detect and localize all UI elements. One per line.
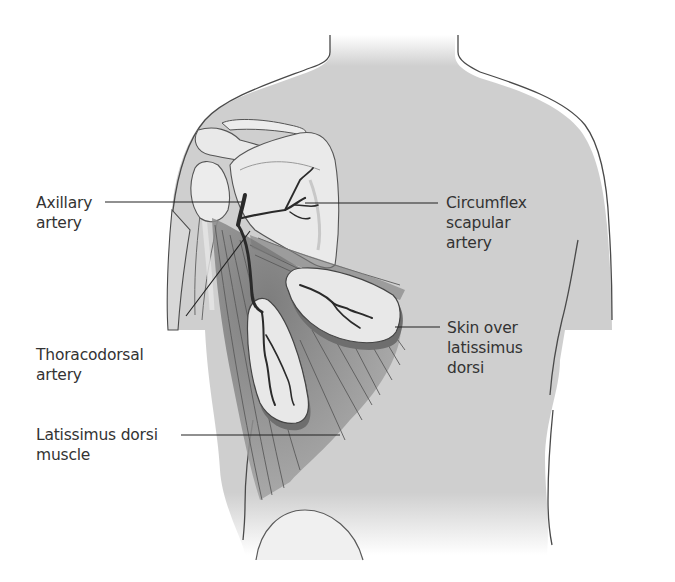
label-circumflex-line3: artery (446, 233, 527, 253)
label-circumflex-line2: scapular (446, 213, 527, 233)
label-axillary-line2: artery (36, 213, 92, 233)
label-skin-line2: latissimus (447, 338, 523, 358)
label-axillary-line1: Axillary (36, 193, 92, 213)
label-latissimus-line1: Latissimus dorsi (36, 425, 158, 445)
label-skin-line3: dorsi (447, 358, 523, 378)
label-circumflex-scapular-artery: Circumflex scapular artery (446, 193, 527, 253)
label-thoracodorsal-line2: artery (36, 365, 144, 385)
label-thoracodorsal-artery: Thoracodorsal artery (36, 345, 144, 385)
label-thoracodorsal-line1: Thoracodorsal (36, 345, 144, 365)
label-skin-line1: Skin over (447, 318, 523, 338)
label-latissimus-line2: muscle (36, 445, 158, 465)
label-skin-over-latissimus-dorsi: Skin over latissimus dorsi (447, 318, 523, 378)
label-latissimus-dorsi-muscle: Latissimus dorsi muscle (36, 425, 158, 465)
anatomy-illustration (0, 0, 675, 582)
label-circumflex-line1: Circumflex (446, 193, 527, 213)
label-axillary-artery: Axillary artery (36, 193, 92, 233)
